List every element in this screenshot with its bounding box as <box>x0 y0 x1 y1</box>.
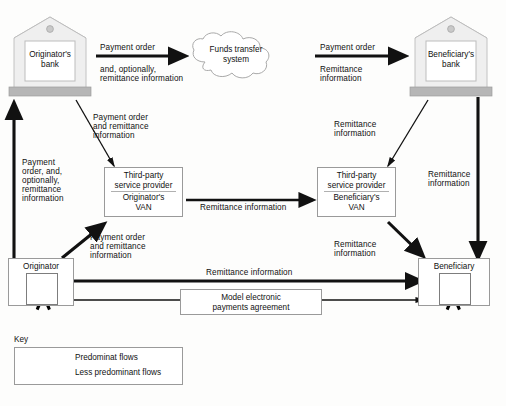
edge-label-fts-to-bb-1: Payment order <box>320 43 375 53</box>
diagram-canvas: Originator's bank Beneficiary's bank Fun… <box>0 0 506 406</box>
originator-van-header2: service provider <box>105 181 182 191</box>
edge-label-bb-down-2: information <box>428 179 470 189</box>
edge-label-fts-to-bb-3: information <box>320 74 362 84</box>
edge-label-ob-to-fts-3: remittance information <box>100 74 183 84</box>
beneficiary-avatar <box>439 273 471 305</box>
originator-van-line1: Originator's <box>105 193 182 203</box>
beneficiary-box[interactable]: Beneficiary <box>418 258 490 306</box>
edge-label-bvan-to-benef-2: information <box>334 249 376 259</box>
flow-beneficiary-van-to-beneficiary <box>388 222 423 256</box>
originator-bank-line2: bank <box>26 60 74 70</box>
key-item-less-predominant-label: Less predominant flows <box>75 368 161 377</box>
beneficiary-van-line1: Beneficiary's <box>318 193 395 203</box>
key-item-predominant-label: Predominat flows <box>75 353 138 362</box>
edge-label-orig-to-ovan-3: information <box>90 251 132 261</box>
fts-line1: Funds transfer <box>196 45 276 55</box>
edge-label-orig-to-benef: Remittance information <box>206 268 292 278</box>
beneficiary-bank-line1: Beneficiary's <box>427 50 475 60</box>
originator-label: Originator <box>9 262 73 272</box>
edge-label-bb-to-bvan-2: information <box>334 129 376 139</box>
originator-van-box[interactable]: Third-party service provider Originator'… <box>104 167 183 217</box>
originator-van-divider <box>111 191 176 192</box>
beneficiary-van-header2: service provider <box>318 181 395 191</box>
beneficiary-bank-label: Beneficiary's bank <box>427 50 475 69</box>
originator-bank-label: Originator's bank <box>26 50 74 69</box>
originator-avatar <box>26 273 58 305</box>
model-agreement-line2: payments agreement <box>181 303 321 313</box>
originator-van-header1: Third-party <box>105 171 182 181</box>
edge-label-ob-to-fts-1: Payment order <box>100 43 155 53</box>
funds-transfer-system-label: Funds transfer system <box>196 45 276 64</box>
model-agreement-line1: Model electronic <box>181 293 321 303</box>
originator-box[interactable]: Originator <box>8 258 74 306</box>
fts-line2: system <box>196 55 276 65</box>
beneficiary-van-line2: VAN <box>318 203 395 213</box>
model-agreement-box[interactable]: Model electronic payments agreement <box>180 289 322 315</box>
beneficiary-label: Beneficiary <box>419 262 489 272</box>
originator-bank-line1: Originator's <box>26 50 74 60</box>
beneficiary-bank-line2: bank <box>427 60 475 70</box>
beneficiary-van-divider <box>324 191 389 192</box>
key-title: Key <box>14 335 28 344</box>
beneficiary-van-box[interactable]: Third-party service provider Beneficiary… <box>317 167 396 217</box>
originator-van-line2: VAN <box>105 203 182 213</box>
beneficiary-van-header1: Third-party <box>318 171 395 181</box>
edge-label-ob-to-ovan-3: information <box>93 131 135 141</box>
edge-label-ob-up-5: information <box>22 194 64 204</box>
edge-label-van-to-van: Remittance information <box>200 203 286 213</box>
flow-beneficiary-bank-to-beneficiary-van <box>388 100 428 166</box>
